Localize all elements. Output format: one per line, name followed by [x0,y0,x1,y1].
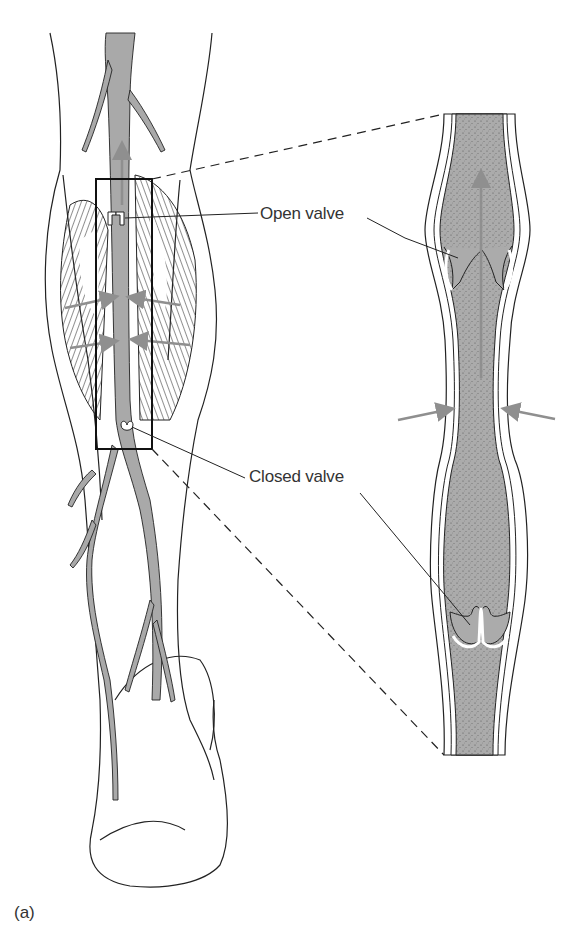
magnified-vein [425,114,530,755]
panel-label: (a) [14,903,35,923]
closed-valve-label: Closed valve [249,467,344,487]
open-valve-label: Open valve [260,204,344,224]
leg-vein-diagram [0,0,585,931]
